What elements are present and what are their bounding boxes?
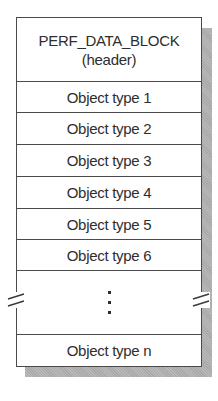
header-title: PERF_DATA_BLOCK — [39, 31, 180, 50]
object-type-label: Object type 1 — [67, 90, 151, 105]
object-type-label: Object type n — [67, 343, 151, 358]
object-type-label: Object type 6 — [67, 248, 151, 263]
object-type-row: Object type 3 — [17, 144, 201, 176]
object-type-label: Object type 2 — [67, 121, 151, 136]
object-type-row: Object type 5 — [17, 208, 201, 240]
object-type-row: Object type 6 — [17, 239, 201, 271]
object-type-label: Object type 5 — [67, 217, 151, 232]
right-break-icon — [191, 292, 211, 308]
object-type-label: Object type 4 — [67, 185, 151, 200]
object-type-row-last: Object type n — [17, 334, 201, 366]
ellipsis-row — [17, 270, 201, 335]
object-type-row: Object type 1 — [17, 81, 201, 113]
header-cell: PERF_DATA_BLOCK (header) — [17, 18, 201, 82]
header-subtitle: (header) — [82, 50, 136, 69]
vertical-ellipsis-icon — [108, 291, 111, 314]
left-break-icon — [6, 292, 26, 308]
object-type-label: Object type 3 — [67, 153, 151, 168]
object-type-row: Object type 4 — [17, 176, 201, 208]
object-type-row: Object type 2 — [17, 112, 201, 144]
perf-data-block-diagram: PERF_DATA_BLOCK (header) Object type 1 O… — [16, 17, 202, 367]
